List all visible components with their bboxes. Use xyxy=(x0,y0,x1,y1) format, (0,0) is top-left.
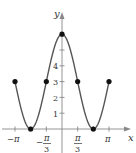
data-point xyxy=(59,32,64,37)
y-axis-arrow-icon xyxy=(60,12,65,19)
x-tick-label-neg-pi: −π xyxy=(7,134,20,144)
x-tick-label-pi3-den: 3 xyxy=(75,145,80,153)
x-tick-label-neg-pi3-sign: − xyxy=(36,137,43,147)
x-tick-label-neg-pi3-den: 3 xyxy=(44,145,49,153)
data-point xyxy=(106,79,111,84)
x-tick-label-pi3-num: π xyxy=(74,133,81,143)
data-point xyxy=(12,79,17,84)
x-tick-label-neg-pi3-num: π xyxy=(43,133,50,143)
x-axis-arrow-icon xyxy=(124,127,131,132)
data-point xyxy=(75,79,80,84)
function-graph: y x −π − π 3 π 3 π 1 2 3 4 xyxy=(0,0,136,153)
data-point xyxy=(44,79,49,84)
x-axis-label: x xyxy=(128,132,134,143)
y-axis-label: y xyxy=(53,8,60,19)
x-tick-label-pi: π xyxy=(104,134,111,144)
y-tick-label-2: 2 xyxy=(53,94,58,103)
y-tick-label-3: 3 xyxy=(53,78,58,87)
y-tick-label-4: 4 xyxy=(53,62,58,71)
data-point xyxy=(91,126,96,131)
y-tick-label-1: 1 xyxy=(53,110,58,119)
data-point xyxy=(28,126,33,131)
